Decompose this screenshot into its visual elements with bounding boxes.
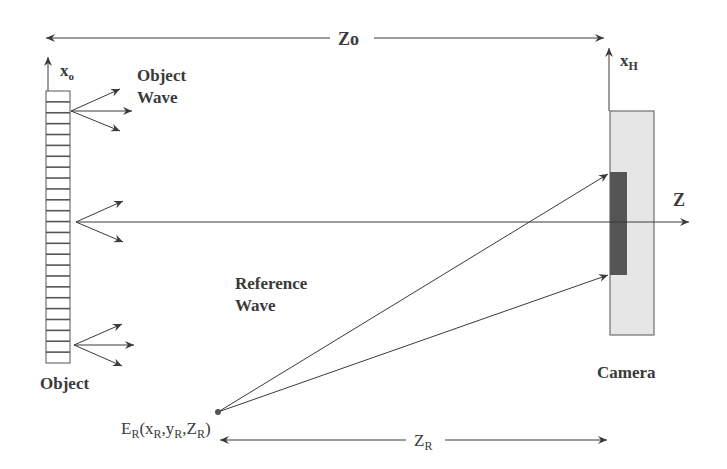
object-wave-label: Object Wave (137, 66, 186, 107)
zo-dimension: Zo (46, 29, 604, 49)
svg-text:Wave: Wave (235, 296, 276, 315)
reference-source-point (215, 409, 221, 415)
camera-sensor (610, 172, 627, 275)
zr-dimension: ZR (220, 431, 607, 453)
svg-text:Reference: Reference (235, 274, 308, 293)
optical-axis-label: Z (673, 190, 685, 210)
reference-wave-rays (218, 174, 608, 412)
object-wave-fan-bottom (74, 324, 134, 366)
zr-label: ZR (414, 431, 432, 453)
object-axis: xo (48, 57, 75, 91)
holography-diagram: Zo xo Object Object Wave xH Z (0, 0, 727, 469)
object-axis-label: xo (60, 61, 75, 82)
zo-label: Zo (338, 29, 359, 49)
object-grating (46, 91, 70, 363)
reference-source-label: ER(xR,yR,ZR) (121, 419, 211, 441)
object-wave-fan-top (71, 89, 132, 131)
hologram-axis-label: xH (620, 51, 639, 73)
camera (610, 111, 654, 335)
camera-label: Camera (597, 363, 656, 382)
svg-text:Wave: Wave (137, 88, 178, 107)
svg-text:Object: Object (137, 66, 186, 85)
hologram-axis: xH (609, 48, 639, 111)
object-label: Object (40, 374, 89, 393)
reference-wave-label: Reference Wave (235, 274, 308, 315)
